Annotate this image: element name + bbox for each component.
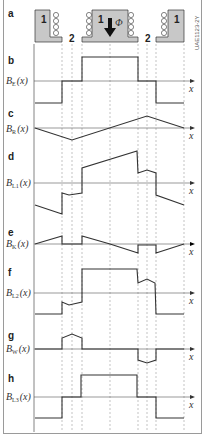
pole-label-1-center: 1 [98, 14, 104, 25]
svg-text:x: x [188, 351, 194, 362]
panel-a: a 1 2 1 Φ 2 1 UAE1123-2Y [8, 8, 200, 50]
field-distribution-diagram: a 1 2 1 Φ 2 1 UAE1123-2Y b BE(x) [0, 0, 206, 438]
panel-a-label: a [8, 8, 14, 19]
figure-code: UAE1123-2Y [194, 15, 200, 50]
coil-right-icon [161, 12, 166, 35]
panel-c-ylabel: BR(x) [6, 123, 29, 135]
panel-g-curve [35, 334, 184, 363]
panel-f-label: f [8, 267, 12, 278]
panel-b-ylabel: BE(x) [6, 75, 29, 87]
coil-center-left-icon [86, 12, 91, 35]
svg-text:x: x [188, 83, 194, 94]
panel-h-label: h [8, 373, 14, 384]
dashed-guides [62, 44, 184, 432]
svg-text:x: x [188, 246, 194, 257]
svg-text:x: x [188, 295, 194, 306]
panel-h-curve [35, 375, 184, 418]
panel-c-label: c [8, 108, 14, 119]
pole-right [156, 10, 184, 42]
panel-d-label: d [8, 151, 14, 162]
svg-text:x: x [188, 399, 194, 410]
gap-label-2-right: 2 [145, 33, 151, 44]
svg-text:x: x [188, 185, 194, 196]
panel-g-label: g [8, 330, 14, 341]
panel-b-label: b [8, 55, 14, 66]
pole-label-1-right: 1 [174, 14, 180, 25]
panel-f-ylabel: BL2(x) [6, 287, 32, 299]
flux-symbol: Φ [115, 17, 123, 28]
panel-d-curve [35, 151, 184, 214]
svg-text:x: x [188, 130, 194, 141]
panel-d-ylabel: BL1(x) [6, 177, 32, 189]
pole-label-1-left: 1 [41, 14, 47, 25]
panel-b-curve [35, 57, 184, 103]
coil-left-icon [53, 12, 58, 35]
panel-h-ylabel: BL3(x) [6, 391, 32, 403]
panel-f-curve [35, 269, 184, 314]
gap-label-2-left: 2 [69, 33, 75, 44]
coil-center-right-icon [128, 12, 133, 35]
panel-e-curve [35, 236, 184, 253]
panel-g-ylabel: BW(x) [6, 343, 31, 355]
panel-e-ylabel: BK(x) [6, 238, 29, 250]
panel-e-label: e [8, 227, 14, 238]
